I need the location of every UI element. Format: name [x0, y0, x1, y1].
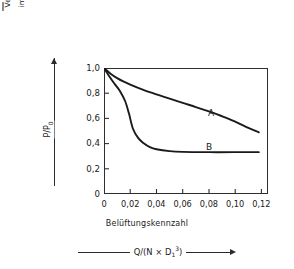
y-tick-label: 0,2 [74, 165, 100, 174]
curve-a [104, 68, 259, 132]
y-axis-arrow-shaft [54, 58, 55, 186]
y-tick-label: 0,4 [74, 139, 100, 148]
y-tick-label: 0,6 [74, 114, 100, 123]
y-axis-ticks [104, 93, 109, 169]
formula-prefix: Q/(N [134, 247, 156, 257]
x-axis-ticks [130, 189, 261, 194]
y-tick-label: 1,0 [74, 64, 100, 73]
x-axis-formula: Q/(N × D13) [134, 245, 183, 258]
y-tick-label: 0,8 [74, 89, 100, 98]
y-caption-line-2: im belüfteten und unbelüfteten Zustand [18, 0, 25, 7]
x-tick-label-group: 00,020,040,060,080,100,12 [80, 200, 294, 214]
y-axis-symbol-label: P/P0 [43, 120, 54, 138]
plot-area: A B [104, 68, 268, 194]
formula-line-left [78, 252, 130, 253]
y-tick-label-group: 00,20,40,60,81,0 [70, 60, 100, 200]
y-axis-caption: Verhältnis der Leistungsaufnahmen im bel… [0, 0, 46, 230]
figure-container: Verhältnis der Leistungsaufnahmen im bel… [0, 0, 294, 269]
plot-svg [104, 68, 268, 194]
x-tick-label: 0,12 [244, 200, 278, 208]
formula-d-subscript: 1 [171, 252, 175, 259]
arrow-right-icon [230, 249, 236, 255]
y-axis-symbol-subscript: 0 [47, 121, 54, 125]
x-axis-caption: Belüftungskennzahl [0, 219, 294, 228]
curve-a-label: A [208, 108, 214, 118]
formula-line-right [186, 252, 230, 253]
y-axis-symbol-group: P/P0 [44, 58, 66, 186]
curve-b [104, 68, 259, 152]
y-tick-label: 0 [74, 190, 100, 199]
y-axis-symbol-text: P/P [43, 125, 52, 137]
x-axis-formula-row: Q/(N × D13) [0, 240, 294, 264]
y-caption-line-1: Verhältnis der Leistungsaufnahmen [4, 0, 11, 7]
curve-b-label: B [206, 142, 212, 152]
formula-suffix: ) [179, 247, 182, 257]
